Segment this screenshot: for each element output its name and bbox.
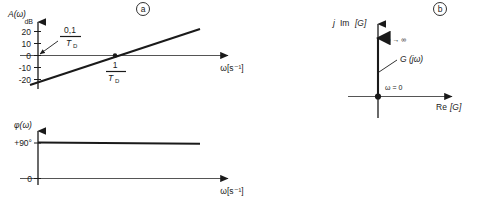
nyquist-plot: j Im [G] Re [G] ω → ∞ G (jω) ω = 0 xyxy=(332,18,462,118)
bode-phase-subplot: +90° 0 φ(ω) ω[s⁻¹] xyxy=(14,120,244,196)
nyquist-real-axis-label: Re [G] xyxy=(436,102,462,112)
panel-letter-b: b xyxy=(434,3,447,16)
panel-letter-a: a xyxy=(137,3,150,16)
corner-frequency-denominator: T xyxy=(108,73,114,83)
nyquist-origin-marker xyxy=(375,93,381,99)
nyquist-omega-infinity-label: ω → ∞ xyxy=(385,36,406,43)
corner-frequency-denominator-subscript: D xyxy=(115,78,120,84)
magnitude-ticklabel-10: 10 xyxy=(22,39,32,49)
nyquist-axis-label-re: Re xyxy=(436,102,447,112)
figure-container: a 20 10 0 -10 -20 A(ω) dB 0,1 T D xyxy=(0,0,477,201)
phase-ticklabel-0: 0 xyxy=(27,174,32,184)
phase-x-axis-label: ω[s⁻¹] xyxy=(220,186,243,196)
annotation-corner-frequency: 1 T D xyxy=(106,60,126,84)
nyquist-locus-leader-line xyxy=(379,60,397,72)
phase-constant-line xyxy=(38,143,200,144)
magnitude-ticklabel-neg20: -20 xyxy=(19,75,32,85)
corner-frequency-marker xyxy=(113,53,117,57)
nyquist-locus-label-group: G (jω) xyxy=(379,54,423,72)
phase-ticklabel-90: +90° xyxy=(14,138,32,148)
low-frequency-denominator-subscript: D xyxy=(73,43,78,49)
low-frequency-leader-line xyxy=(40,41,58,54)
magnitude-y-axis-label: A(ω) xyxy=(7,9,26,19)
low-frequency-numerator: 0,1 xyxy=(64,25,76,35)
nyquist-axis-label-im: Im xyxy=(340,18,349,28)
bode-magnitude-subplot: 20 10 0 -10 -20 A(ω) dB 0,1 T D 1 T D ω[… xyxy=(7,9,244,89)
phase-y-axis-label: φ(ω) xyxy=(14,120,32,130)
nyquist-imaginary-axis-label: j Im [G] xyxy=(332,18,367,28)
nyquist-axis-label-re-g: [G] xyxy=(449,102,462,112)
panel-letter-a-text: a xyxy=(141,4,146,14)
nyquist-omega-zero-label: ω = 0 xyxy=(385,84,402,91)
corner-frequency-numerator: 1 xyxy=(113,60,118,70)
annotation-low-frequency: 0,1 T D xyxy=(40,25,81,54)
nyquist-locus-label: G (jω) xyxy=(400,54,423,64)
magnitude-ticklabel-neg10: -10 xyxy=(19,63,32,73)
magnitude-x-axis-label: ω[s⁻¹] xyxy=(220,63,243,73)
low-frequency-denominator: T xyxy=(66,38,72,48)
nyquist-axis-label-j: j xyxy=(332,18,336,28)
magnitude-ticklabel-20: 20 xyxy=(22,27,32,37)
magnitude-ticklabel-0: 0 xyxy=(26,51,31,61)
magnitude-y-axis-unit: dB xyxy=(24,18,33,25)
nyquist-axis-label-im-g: [G] xyxy=(354,18,367,28)
panel-letter-b-text: b xyxy=(438,4,443,14)
